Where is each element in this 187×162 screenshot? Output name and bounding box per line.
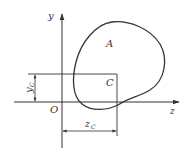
area-boundary: [74, 22, 165, 110]
zc-label: z C: [84, 119, 96, 130]
svg-text:y: y: [23, 87, 34, 94]
svg-text:C: C: [91, 123, 96, 130]
origin-label: O: [50, 104, 58, 115]
z-axis-label: z: [169, 106, 175, 116]
centroid-diagram: y z O A C y C z C: [0, 0, 187, 162]
svg-text:C: C: [28, 82, 35, 87]
area-label: A: [105, 38, 113, 49]
centroid-label: C: [106, 77, 114, 88]
svg-text:z: z: [84, 119, 90, 129]
yc-label: y C: [23, 82, 35, 94]
y-axis-label: y: [47, 10, 54, 21]
